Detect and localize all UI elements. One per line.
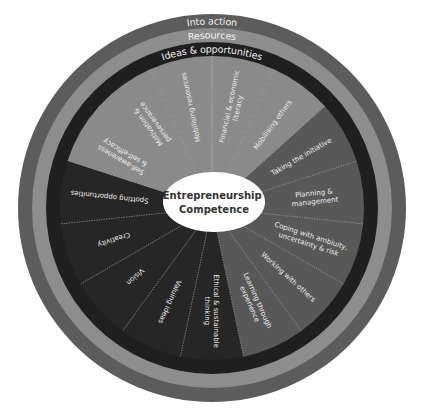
center-label-line-2: Competence: [179, 204, 249, 215]
ring-label: Resources: [187, 29, 237, 42]
entrepreneurship-competence-wheel: Self-awareness& self-efficacyMotivation …: [0, 0, 422, 412]
ring-label: Into action: [186, 15, 238, 28]
center-ellipse: [163, 172, 265, 232]
center-label-line-1: Entrepreneurship: [163, 190, 262, 201]
